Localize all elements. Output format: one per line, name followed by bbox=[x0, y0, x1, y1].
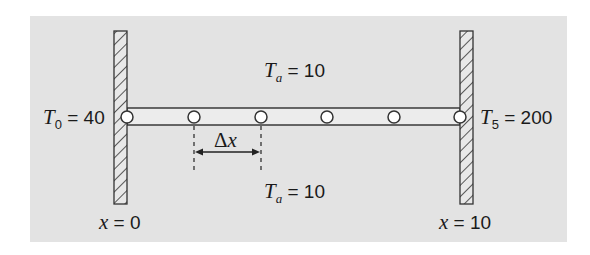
node-0 bbox=[121, 111, 133, 123]
ambient-temp-bottom-label: Ta = 10 bbox=[264, 181, 325, 202]
delta-x-label: Δx bbox=[214, 130, 237, 151]
node-4 bbox=[388, 111, 400, 123]
right-boundary-temp-label: T5 = 200 bbox=[480, 107, 552, 128]
node-5 bbox=[454, 111, 466, 123]
node-3 bbox=[321, 111, 333, 123]
right-position-label: x = 10 bbox=[439, 212, 491, 233]
ambient-temp-top-label: Ta = 10 bbox=[264, 60, 325, 81]
node-2 bbox=[255, 111, 267, 123]
left-position-label: x = 0 bbox=[99, 212, 141, 233]
node-1 bbox=[188, 111, 200, 123]
rod bbox=[127, 108, 460, 125]
left-boundary-temp-label: T0 = 40 bbox=[43, 107, 105, 128]
